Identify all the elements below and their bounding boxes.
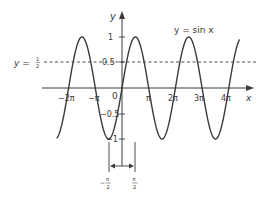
right-bound-den: 2 (133, 184, 136, 190)
arrow-right-icon (129, 164, 134, 169)
sine-chart: y x y = sin x y = 1 2 1 0.5 −0.5 −1 −2π … (0, 0, 267, 199)
hline-label-num: 1 (36, 56, 39, 62)
y-axis-arrow-icon (119, 11, 125, 19)
left-bound-num: π (106, 176, 109, 182)
y-tick-neg1: −1 (106, 135, 118, 144)
arrow-left-icon (110, 164, 115, 169)
y-tick-neg0.5: −0.5 (100, 110, 119, 119)
left-bound-den: 2 (107, 184, 110, 190)
y-tick-1: 1 (108, 33, 113, 42)
y-tick-0.5: 0.5 (102, 58, 115, 67)
x-tick-pi: π (146, 94, 151, 103)
x-tick-neg2pi: −2π (58, 94, 75, 103)
curve-label: y = sin x (174, 25, 214, 35)
right-bound-num: π (133, 176, 136, 182)
x-axis-label: x (245, 93, 252, 103)
x-tick-4pi: 4π (221, 94, 231, 103)
x-tick-2pi: 2π (168, 94, 178, 103)
origin-label: 0 (112, 91, 118, 101)
hline-label-den: 2 (36, 63, 39, 69)
left-bound-sign: − (100, 179, 105, 186)
y-axis-label: y (109, 11, 117, 22)
hline-label-prefix: y = (13, 58, 30, 68)
x-tick-negpi: −π (88, 94, 100, 103)
x-axis-arrow-icon (246, 85, 254, 91)
x-tick-3pi: 3π (194, 94, 204, 103)
